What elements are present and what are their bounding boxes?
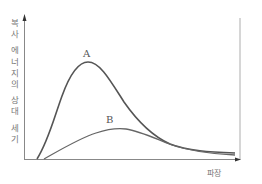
curve-a-label: A (83, 48, 90, 59)
ylabel-char: 지 (8, 68, 22, 79)
ylabel-char: 에 (8, 45, 22, 56)
ylabel-char: 복 (8, 18, 22, 29)
ylabel-char: 대 (8, 106, 22, 117)
y-axis-arrow-icon (23, 14, 27, 21)
curve-b-label: B (106, 114, 113, 125)
curve-a (37, 62, 235, 159)
ylabel-char: 상 (8, 95, 22, 106)
y-axis-label: 복 사 에 너 지 의 상 대 세 기 (8, 18, 22, 145)
ylabel-char: 의 (8, 79, 22, 90)
ylabel-char: 세 (8, 123, 22, 134)
ylabel-char: 너 (8, 57, 22, 68)
curve-b (44, 129, 235, 159)
ylabel-char: 사 (8, 29, 22, 40)
x-axis-label: 파장 (207, 167, 221, 178)
ylabel-char: 기 (8, 134, 22, 145)
chart-plot (0, 0, 262, 184)
